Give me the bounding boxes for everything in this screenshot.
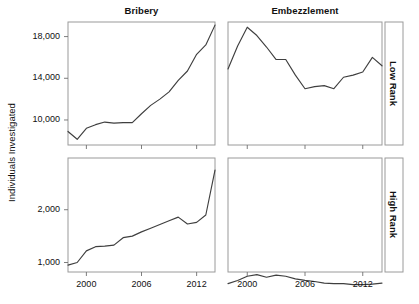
panel-embezzlement-high-rank — [227, 157, 383, 273]
x-tick-label: 2012 — [177, 279, 217, 289]
x-tick-label: 2000 — [227, 279, 267, 289]
y-tick-label: 18,000 — [8, 31, 60, 41]
panel-title-bribery: Bribery — [68, 5, 215, 16]
strip-label-high-rank: High Rank — [388, 175, 399, 255]
panel-bribery-high-rank — [67, 157, 216, 273]
x-tick-label: 2012 — [343, 279, 383, 289]
y-tick-label: 10,000 — [8, 114, 60, 124]
panel-bribery-low-rank — [67, 21, 216, 146]
chart-figure: BriberyEmbezzlementIndividuals Investiga… — [0, 0, 419, 304]
y-axis-title: Individuals Investigated — [6, 88, 17, 218]
y-tick-label: 2,000 — [8, 204, 60, 214]
y-tick-label: 1,000 — [8, 257, 60, 267]
panel-title-embezzlement: Embezzlement — [228, 5, 382, 16]
y-tick-label: 14,000 — [8, 72, 60, 82]
strip-label-low-rank: Low Rank — [388, 43, 399, 123]
x-tick-label: 2000 — [66, 279, 106, 289]
panel-embezzlement-low-rank — [227, 21, 383, 146]
x-tick-label: 2006 — [122, 279, 162, 289]
x-tick-label: 2006 — [285, 279, 325, 289]
